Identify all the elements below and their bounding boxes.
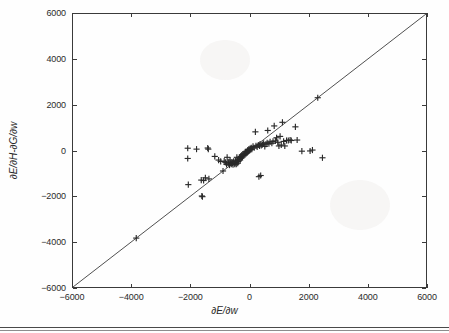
y-axis-tick-label: −4000 bbox=[28, 237, 66, 247]
data-point bbox=[193, 146, 199, 152]
x-axis-tick-top bbox=[309, 13, 310, 17]
data-point bbox=[205, 145, 211, 151]
data-point bbox=[185, 145, 191, 151]
plot-area bbox=[72, 13, 427, 288]
y-axis-tick bbox=[73, 196, 77, 197]
y-axis-tick-right bbox=[422, 13, 426, 14]
data-point bbox=[282, 143, 288, 149]
y-axis-tick-right bbox=[422, 105, 426, 106]
y-axis-label-text: ∂E/∂H-∂G/∂w bbox=[9, 121, 20, 179]
y-axis-tick bbox=[73, 59, 77, 60]
x-axis-tick-top bbox=[190, 13, 191, 17]
x-axis-tick-label: 4000 bbox=[358, 292, 378, 302]
x-axis-tick-label: −4000 bbox=[119, 292, 144, 302]
x-axis-tick-top bbox=[250, 13, 251, 17]
data-point bbox=[273, 135, 279, 141]
y-axis-tick-label: −6000 bbox=[28, 283, 66, 293]
x-axis-tick bbox=[309, 284, 310, 288]
y-axis-label: ∂E/∂H-∂G/∂w bbox=[6, 0, 22, 300]
y-axis-tick-right bbox=[422, 59, 426, 60]
x-axis-tick bbox=[250, 284, 251, 288]
x-axis-tick-top bbox=[368, 13, 369, 17]
data-point bbox=[185, 155, 191, 161]
x-axis-tick-label: 0 bbox=[247, 292, 252, 302]
data-point bbox=[279, 119, 285, 125]
x-axis-tick-label: −2000 bbox=[178, 292, 203, 302]
x-axis-tick bbox=[427, 284, 428, 288]
x-axis-tick-label: 2000 bbox=[299, 292, 319, 302]
data-point bbox=[185, 182, 191, 188]
data-point bbox=[265, 127, 271, 133]
y-axis-tick-label: 6000 bbox=[28, 8, 66, 18]
data-point bbox=[277, 133, 283, 139]
x-axis-tick bbox=[131, 284, 132, 288]
data-point bbox=[271, 123, 277, 129]
page-separator-rule-secondary bbox=[0, 330, 449, 331]
data-point bbox=[205, 146, 211, 152]
x-axis-tick-top bbox=[131, 13, 132, 17]
y-axis-tick bbox=[73, 151, 77, 152]
data-point-markers bbox=[133, 95, 325, 242]
page-separator-rule bbox=[0, 327, 449, 328]
y-axis-tick-right bbox=[422, 242, 426, 243]
data-point bbox=[199, 194, 205, 200]
data-point bbox=[294, 137, 300, 143]
data-point bbox=[319, 155, 325, 161]
data-point bbox=[199, 193, 205, 199]
data-point bbox=[288, 137, 294, 143]
x-axis-tick-label: −6000 bbox=[60, 292, 85, 302]
data-layer bbox=[73, 14, 426, 287]
y-axis-tick bbox=[73, 13, 77, 14]
y-axis-tick-right bbox=[422, 288, 426, 289]
y-axis-tick-label: 2000 bbox=[28, 100, 66, 110]
y-axis-tick-label: 0 bbox=[28, 146, 66, 156]
x-axis-tick bbox=[190, 284, 191, 288]
scatter-plot-figure: ∂E/∂H-∂G/∂w −6000−4000−20000200040006000… bbox=[0, 0, 449, 333]
y-axis-tick-right bbox=[422, 151, 426, 152]
data-point bbox=[206, 176, 212, 182]
y-axis-tick bbox=[73, 242, 77, 243]
data-point bbox=[212, 153, 218, 159]
x-axis-tick-top bbox=[427, 13, 428, 17]
x-axis-label: ∂E/∂w bbox=[0, 305, 449, 316]
y-axis-tick bbox=[73, 105, 77, 106]
x-axis-tick-label: 6000 bbox=[417, 292, 437, 302]
x-axis-label-text: ∂E/∂w bbox=[211, 305, 238, 316]
data-point bbox=[252, 129, 258, 135]
y-axis-tick-label: 4000 bbox=[28, 54, 66, 64]
y-axis-tick bbox=[73, 288, 77, 289]
data-point bbox=[299, 148, 305, 154]
y-axis-tick-right bbox=[422, 196, 426, 197]
data-point bbox=[292, 124, 298, 130]
x-axis-tick bbox=[368, 284, 369, 288]
y-axis-tick-label: −2000 bbox=[28, 191, 66, 201]
